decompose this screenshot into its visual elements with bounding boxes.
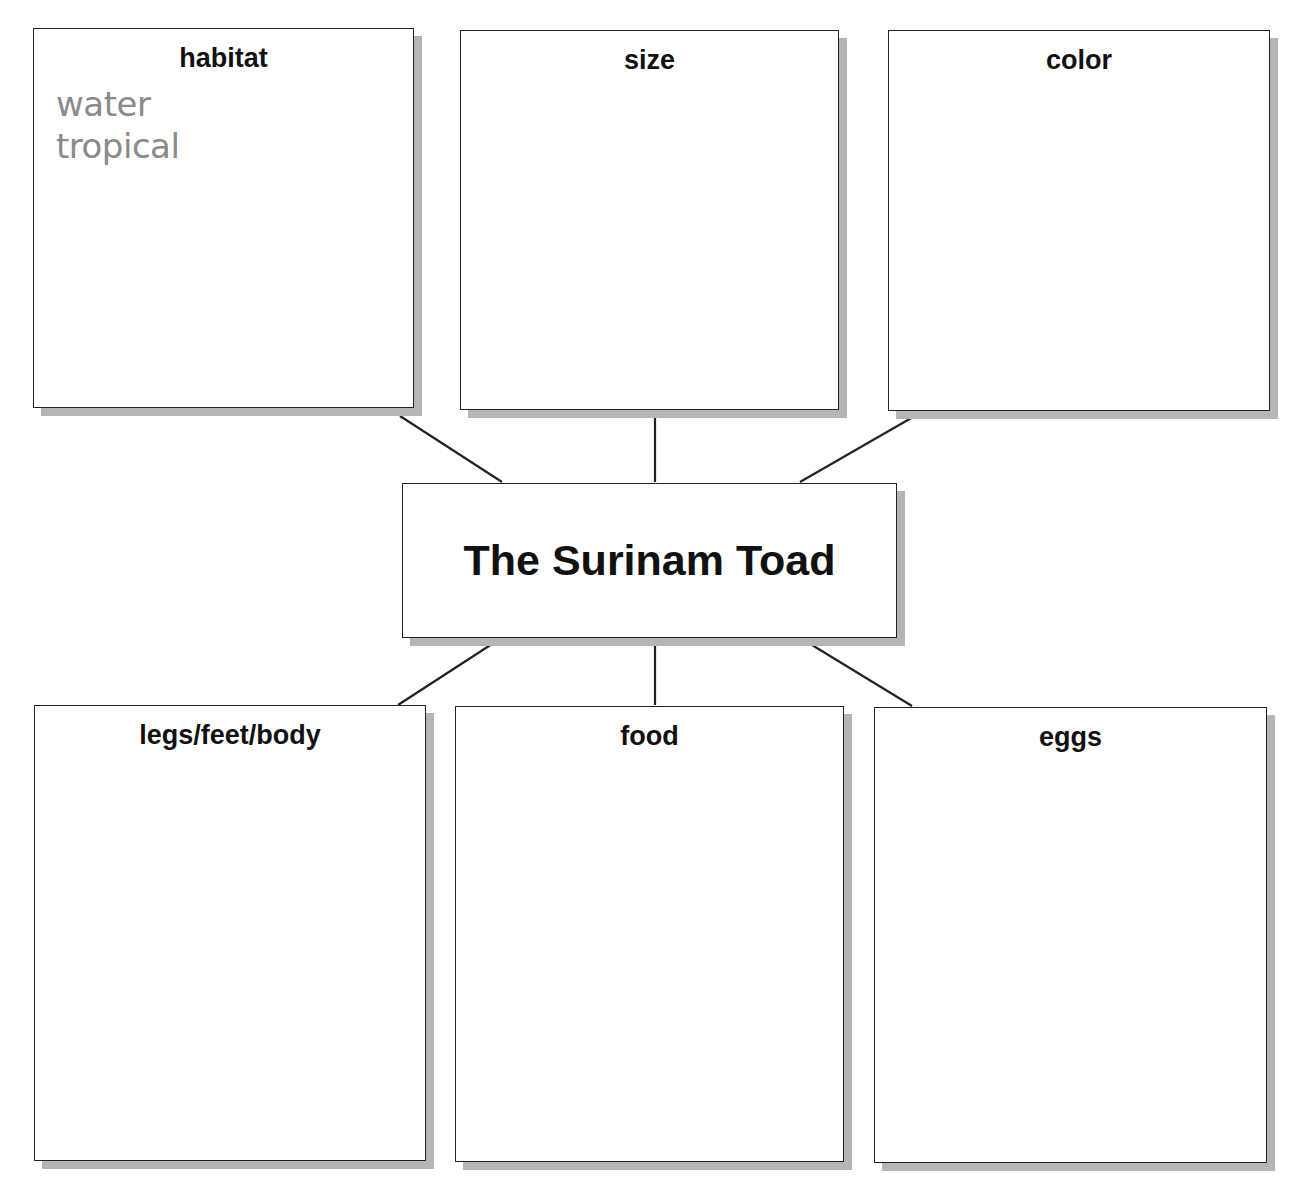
category-title: color	[889, 45, 1269, 76]
category-box-legs: legs/feet/body	[34, 705, 426, 1161]
category-box-food: food	[455, 706, 844, 1162]
central-topic-title: The Surinam Toad	[464, 536, 836, 585]
category-title: eggs	[875, 722, 1266, 753]
note-item: water	[56, 83, 179, 125]
connector-color	[800, 417, 913, 482]
category-box-eggs: eggs	[874, 707, 1267, 1163]
connector-habitat	[400, 416, 502, 482]
note-item: tropical	[56, 125, 179, 167]
category-title: legs/feet/body	[35, 720, 425, 751]
central-topic-box: The Surinam Toad	[402, 483, 897, 638]
category-box-size: size	[460, 30, 839, 410]
category-notes: water tropical	[56, 83, 179, 167]
category-title: habitat	[34, 43, 413, 74]
connector-eggs	[812, 645, 912, 706]
category-box-habitat: habitat water tropical	[33, 28, 414, 408]
category-title: food	[456, 721, 843, 752]
category-title: size	[461, 45, 838, 76]
connector-legs	[398, 644, 492, 705]
category-box-color: color	[888, 30, 1270, 411]
